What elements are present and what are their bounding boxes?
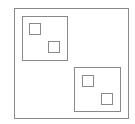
- group-box-2: [74, 67, 121, 112]
- group-1-item-2: [48, 41, 60, 53]
- group-2-item-1: [82, 75, 94, 87]
- group-2-item-2: [101, 93, 113, 105]
- group-1-item-1: [29, 23, 41, 35]
